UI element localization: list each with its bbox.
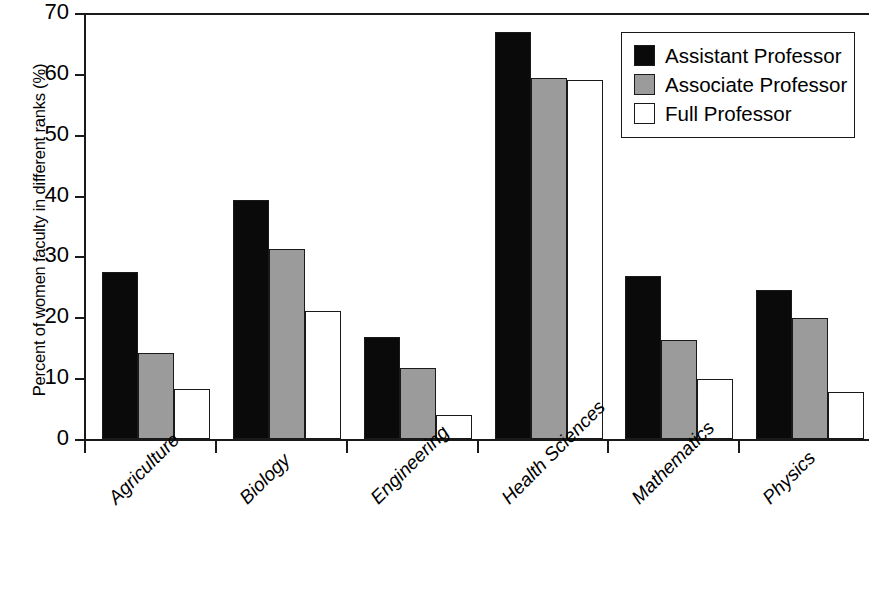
chart-legend: Assistant ProfessorAssociate ProfessorFu… (621, 32, 855, 138)
x-axis-category-label: Biology (236, 450, 294, 508)
bar-associate (138, 353, 174, 439)
y-axis-tick-mark: 40 (75, 196, 84, 198)
y-axis-tick-label: 60 (45, 61, 69, 85)
bar-full (305, 311, 341, 439)
y-axis-tick-label: 70 (45, 0, 69, 24)
bar-assistant (625, 276, 661, 439)
legend-swatch-full (634, 103, 655, 124)
legend-label: Assistant Professor (665, 45, 842, 67)
legend-swatch-assistant (634, 45, 655, 66)
y-axis-tick-label: 20 (45, 304, 69, 328)
y-axis-tick-mark: 10 (75, 378, 84, 380)
axis-top-spine (84, 13, 869, 15)
x-axis-category-label: Physics (759, 448, 819, 508)
y-axis-tick-label: 30 (45, 243, 69, 267)
bar-assistant (233, 200, 269, 439)
bar-assistant (364, 337, 400, 439)
x-axis-tick-mark (346, 441, 348, 453)
bar-assistant (495, 32, 531, 439)
axis-left-spine (84, 13, 86, 441)
bar-assistant (102, 272, 138, 439)
bar-full (174, 389, 210, 439)
bar-associate (661, 340, 697, 439)
legend-item: Associate Professor (634, 70, 844, 99)
y-axis-tick-mark: 70 (75, 13, 84, 15)
y-axis-tick-mark: 60 (75, 74, 84, 76)
x-axis-tick-mark (84, 441, 86, 453)
bar-full (567, 80, 603, 439)
y-axis-tick-mark: 50 (75, 135, 84, 137)
bar-full (828, 392, 864, 439)
y-axis-tick-label: 50 (45, 122, 69, 146)
x-axis-category-label: Agriculture (105, 430, 183, 508)
legend-item: Assistant Professor (634, 41, 844, 70)
x-axis-tick-mark (477, 441, 479, 453)
x-axis-tick-mark (215, 441, 217, 453)
legend-label: Associate Professor (665, 74, 847, 96)
bar-associate (531, 78, 567, 439)
bar-associate (792, 318, 828, 439)
bar-chart-figure: Percent of women faculty in different ra… (0, 0, 869, 589)
bar-associate (269, 249, 305, 439)
y-axis-tick-label: 0 (57, 426, 69, 450)
legend-label: Full Professor (665, 103, 791, 125)
y-axis-tick-mark: 20 (75, 317, 84, 319)
legend-item: Full Professor (634, 99, 844, 128)
x-axis-tick-mark (607, 441, 609, 453)
bar-assistant (756, 290, 792, 439)
y-axis-tick-label: 40 (45, 183, 69, 207)
y-axis-tick-label: 10 (45, 365, 69, 389)
legend-swatch-associate (634, 74, 655, 95)
y-axis-tick-mark: 30 (75, 256, 84, 258)
y-axis-tick-mark: 0 (75, 439, 84, 441)
x-axis-tick-mark (738, 441, 740, 453)
